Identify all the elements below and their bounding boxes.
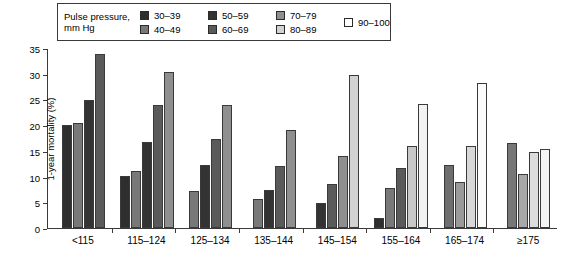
legend-label: 50–59: [222, 10, 248, 21]
bar: [189, 191, 199, 228]
bar: [407, 146, 417, 228]
bar: [518, 174, 528, 228]
legend-entry-60-69: 60–69: [208, 24, 270, 35]
bar-group: [507, 49, 551, 228]
bar: [540, 149, 550, 228]
legend-entry-50-59: 50–59: [208, 10, 270, 21]
y-tick-mark: [43, 178, 47, 179]
bar: [131, 171, 141, 228]
legend-swatch-icon: [208, 11, 217, 20]
legend-label: 40–49: [154, 24, 180, 35]
bar: [507, 143, 517, 228]
bar: [142, 142, 152, 228]
bar: [529, 152, 539, 228]
legend-column-3: 70–79 80–89: [276, 10, 338, 35]
bar: [286, 130, 296, 228]
bar-group: [120, 49, 175, 228]
legend-swatch-icon: [140, 25, 149, 34]
legend-label: 30–39: [154, 10, 180, 21]
chart-legend: Pulse pressure, mm Hg 30–39 40–49 50–59: [57, 3, 391, 41]
bar: [327, 184, 337, 228]
legend-label: 90–100: [358, 17, 390, 28]
x-tick-label: 135–144: [254, 235, 293, 246]
legend-swatch-icon: [276, 11, 285, 20]
y-tick-label: 35: [29, 44, 40, 55]
y-tick-label: 5: [35, 198, 40, 209]
bar: [444, 165, 454, 228]
bar: [62, 125, 72, 228]
x-tick-label: ≥175: [517, 235, 539, 246]
x-tick-label: 115–124: [127, 235, 165, 246]
y-tick-mark: [43, 75, 47, 76]
bar: [120, 176, 130, 228]
legend-label: 70–79: [290, 10, 316, 21]
legend-entries: 30–39 40–49 50–59 60–69: [140, 4, 420, 40]
bar: [466, 146, 476, 228]
bar: [95, 54, 105, 228]
y-tick-mark: [43, 203, 47, 204]
legend-swatch-icon: [344, 18, 353, 27]
bar: [153, 105, 163, 228]
figure: Pulse pressure, mm Hg 30–39 40–49 50–59: [0, 0, 573, 278]
legend-title-line2: mm Hg: [64, 22, 140, 33]
legend-entry-40-49: 40–49: [140, 24, 202, 35]
legend-column-4: 90–100: [344, 17, 414, 28]
x-tick-mark: [430, 229, 431, 233]
y-tick-label: 20: [29, 121, 40, 132]
y-tick-label: 0: [35, 224, 40, 235]
legend-entry-30-39: 30–39: [140, 10, 202, 21]
x-tick-mark: [112, 229, 113, 233]
legend-column-2: 50–59 60–69: [208, 10, 270, 35]
bar-group: [253, 49, 297, 228]
y-tick-mark: [43, 229, 47, 230]
bar-group: [189, 49, 233, 228]
legend-title: Pulse pressure, mm Hg: [64, 11, 140, 33]
y-tick-mark: [43, 49, 47, 50]
y-tick-mark: [43, 126, 47, 127]
y-tick-label: 25: [29, 95, 40, 106]
bar-group: [62, 49, 106, 228]
bar: [264, 190, 274, 228]
bar: [253, 199, 263, 228]
legend-swatch-icon: [276, 25, 285, 34]
x-tick-mark: [366, 229, 367, 233]
x-tick-mark: [493, 229, 494, 233]
bar: [374, 218, 384, 228]
bar: [164, 72, 174, 228]
y-tick-mark: [43, 100, 47, 101]
bar: [222, 105, 232, 228]
x-tick-label: 155–164: [381, 235, 420, 246]
legend-label: 80–89: [290, 24, 316, 35]
bar: [275, 166, 285, 228]
y-tick-label: 30: [29, 69, 40, 80]
legend-column-1: 30–39 40–49: [140, 10, 202, 35]
plot-area: 1-year mortality (%) 05101520253035 <115…: [47, 49, 557, 229]
legend-entry-80-89: 80–89: [276, 24, 338, 35]
x-tick-label: <115: [72, 235, 94, 246]
legend-title-line1: Pulse pressure,: [64, 11, 140, 22]
x-tick-mark: [303, 229, 304, 233]
y-tick-label: 10: [29, 172, 40, 183]
bar: [73, 123, 83, 228]
x-tick-mark: [239, 229, 240, 233]
y-tick-mark: [43, 152, 47, 153]
legend-swatch-icon: [140, 11, 149, 20]
bar-group: [374, 49, 429, 228]
legend-label: 60–69: [222, 24, 248, 35]
legend-entry-70-79: 70–79: [276, 10, 338, 21]
legend-swatch-icon: [208, 25, 217, 34]
bar: [316, 203, 326, 228]
bar: [396, 168, 406, 228]
bar: [200, 165, 210, 228]
bar-group: [316, 49, 360, 228]
bar-groups: [48, 49, 557, 228]
bar: [455, 182, 465, 228]
x-tick-label: 125–134: [191, 235, 230, 246]
legend-entry-90-100: 90–100: [344, 17, 414, 28]
x-tick-label: 145–154: [318, 235, 357, 246]
bar-group: [444, 49, 488, 228]
bar: [349, 75, 359, 228]
y-tick-label: 15: [29, 146, 40, 157]
bar: [385, 188, 395, 228]
bar: [211, 139, 221, 228]
